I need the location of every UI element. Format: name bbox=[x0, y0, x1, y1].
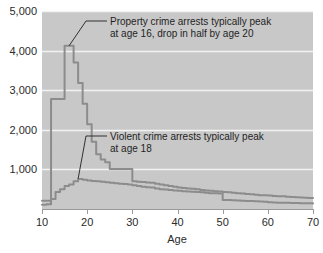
violent-annotation-line-1: Violent crime arrests typically peak bbox=[110, 131, 265, 142]
x-tick-label: 20 bbox=[81, 216, 93, 228]
x-tick-label: 10 bbox=[36, 216, 48, 228]
y-tick-label: 5,000 bbox=[9, 5, 37, 17]
y-tick-label: 3,000 bbox=[9, 84, 37, 96]
y-tick-label: 4,000 bbox=[9, 45, 37, 57]
chart-figure: 1,0002,0003,0004,0005,000 10203040506070… bbox=[0, 0, 323, 253]
crime-arrests-by-age-chart: 1,0002,0003,0004,0005,000 10203040506070… bbox=[0, 0, 323, 253]
x-tick-label: 70 bbox=[307, 216, 319, 228]
x-axis-tick-labels: 10203040506070 bbox=[36, 216, 319, 228]
x-tick-label: 50 bbox=[217, 216, 229, 228]
x-axis-title: Age bbox=[167, 233, 187, 245]
violent-annotation-line-2: at age 18 bbox=[110, 143, 152, 154]
y-tick-label: 2,000 bbox=[9, 124, 37, 136]
x-tick-label: 40 bbox=[171, 216, 183, 228]
x-tick-label: 60 bbox=[262, 216, 274, 228]
y-axis-tick-labels: 1,0002,0003,0004,0005,000 bbox=[9, 5, 37, 175]
y-tick-label: 1,000 bbox=[9, 163, 37, 175]
x-tick-label: 30 bbox=[126, 216, 138, 228]
property-annotation-line-1: Property crime arrests typically peak bbox=[110, 16, 272, 27]
property-annotation-line-2: at age 16, drop in half by age 20 bbox=[110, 28, 254, 39]
